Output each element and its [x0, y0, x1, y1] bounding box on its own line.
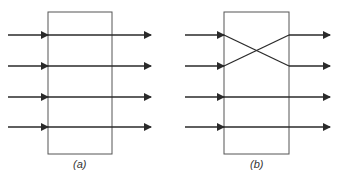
- box-a: [48, 12, 112, 154]
- box-b: [224, 12, 289, 154]
- caption-a: (a): [73, 158, 86, 170]
- output-arrowhead-b-2: [323, 31, 331, 39]
- caption-b: (b): [250, 158, 263, 170]
- output-arrowhead-a-4: [144, 123, 152, 131]
- output-arrowhead-a-1: [144, 31, 152, 39]
- output-arrowhead-a-2: [144, 62, 152, 70]
- output-arrowhead-a-3: [144, 93, 152, 101]
- output-arrowhead-b-4: [323, 123, 331, 131]
- permutation-diagram: [0, 0, 338, 184]
- output-arrowhead-b-3: [323, 93, 331, 101]
- output-arrowhead-b-1: [323, 62, 331, 70]
